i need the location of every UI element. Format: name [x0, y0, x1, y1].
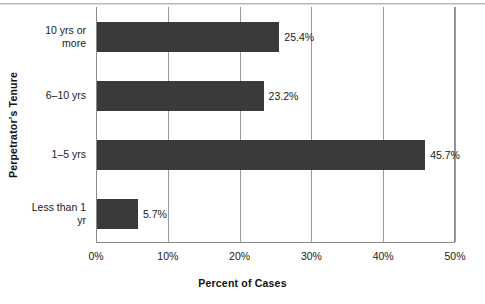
gridline-50 — [455, 7, 456, 242]
x-tick-0pct: 0% — [88, 250, 103, 262]
x-axis-title: Percent of Cases — [0, 277, 485, 289]
x-tick-50pct: 50% — [444, 250, 465, 262]
bar-3 — [97, 22, 279, 52]
x-tick-40pct: 40% — [373, 250, 394, 262]
gridline-40 — [383, 7, 384, 242]
y-axis-title-container: Perpetrator's Tenure — [4, 7, 22, 243]
bar-1 — [97, 140, 425, 170]
bar-value-label-2: 23.2% — [269, 91, 299, 102]
horizontal-bar-chart: Less than 1 yr1–5 yrs6–10 yrs10 yrs or m… — [0, 0, 485, 304]
y-axis-title: Perpetrator's Tenure — [7, 72, 19, 178]
bar-2 — [97, 81, 264, 111]
x-tick-10pct: 10% — [157, 250, 178, 262]
x-tick-30pct: 30% — [301, 250, 322, 262]
bar-value-label-3: 25.4% — [284, 32, 314, 43]
x-tick-20pct: 20% — [229, 250, 250, 262]
bar-0 — [97, 199, 138, 229]
bar-value-label-0: 5.7% — [143, 209, 167, 220]
bar-value-label-1: 45.7% — [430, 150, 460, 161]
